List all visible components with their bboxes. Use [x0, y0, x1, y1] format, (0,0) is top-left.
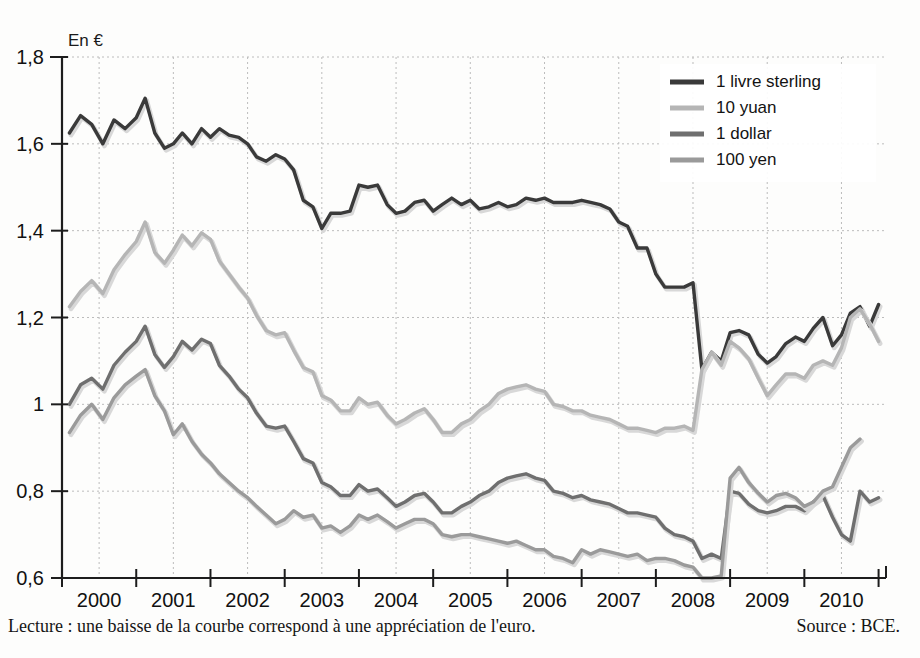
x-tick-label: 2005 — [448, 589, 493, 611]
series-shadow-2 — [71, 224, 880, 435]
y-tick-label: 1,4 — [16, 220, 44, 242]
y-tick-label: 1,6 — [16, 133, 44, 155]
legend-label-2: 10 yuan — [716, 98, 777, 117]
x-tick-label: 2008 — [671, 589, 716, 611]
y-tick-label: 1 — [33, 393, 44, 415]
y-axis-unit-label: En € — [68, 31, 104, 50]
exchange-rate-figure: 0,60,811,21,41,61,8200020012002200320042… — [0, 0, 920, 658]
series-line-100-yen — [69, 370, 860, 578]
x-tick-label: 2010 — [819, 589, 864, 611]
source-note: Source : BCE. — [797, 616, 901, 637]
y-tick-label: 0,6 — [16, 567, 44, 589]
y-tick-label: 1,2 — [16, 307, 44, 329]
legend-label-4: 100 yen — [716, 150, 777, 169]
x-tick-label: 2009 — [745, 589, 790, 611]
lecture-note: Lecture : une baisse de la courbe corres… — [8, 616, 536, 637]
y-tick-label: 1,8 — [16, 46, 44, 68]
x-tick-label: 2006 — [522, 589, 567, 611]
x-tick-label: 2004 — [374, 589, 419, 611]
y-axis-ticks: 0,60,811,21,41,61,8 — [16, 46, 68, 589]
x-tick-label: 2003 — [300, 589, 345, 611]
series-line-10-yuan — [69, 222, 878, 433]
x-tick-label: 2000 — [77, 589, 122, 611]
x-tick-label: 2001 — [151, 589, 196, 611]
chart-legend: 1 livre sterling10 yuan1 dollar100 yen — [660, 64, 876, 182]
y-tick-label: 0,8 — [16, 480, 44, 502]
x-axis-ticks: 2000200120022003200420052006200720082009… — [62, 569, 879, 611]
x-tick-label: 2002 — [225, 589, 270, 611]
legend-label-1: 1 livre sterling — [716, 72, 821, 91]
x-tick-label: 2007 — [597, 589, 642, 611]
legend-label-3: 1 dollar — [716, 124, 772, 143]
exchange-rate-line-chart: 0,60,811,21,41,61,8200020012002200320042… — [0, 0, 920, 658]
